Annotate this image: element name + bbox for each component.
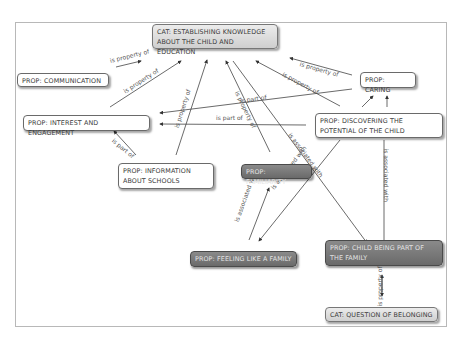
node-cat-establishing-knowledge[interactable]: CAT: ESTABLISHING KNOWLEDGE ABOUT THE CH… <box>152 24 278 49</box>
edges-layer <box>0 0 464 343</box>
node-prop-discovering-potential[interactable]: PROP: DISCOVERING THE POTENTIAL OF THE C… <box>315 113 443 138</box>
node-prop-communication[interactable]: PROP: COMMUNICATION <box>17 73 109 87</box>
edge-discovering-caring <box>362 96 373 107</box>
node-cat-question-belonging[interactable]: CAT: QUESTION OF BELONGING <box>325 307 438 322</box>
node-prop-child-part-of-family[interactable]: PROP: CHILD BEING PART OF THE FAMILY <box>325 240 443 266</box>
edge-interest-cat <box>110 61 181 107</box>
node-prop-interest-engagement[interactable]: PROP: INTEREST AND ENGAGEMENT <box>23 115 150 131</box>
edge-label: is property of <box>376 266 383 306</box>
node-prop-information-schools[interactable]: PROP: INFORMATION ABOUT SCHOOLS <box>118 163 214 189</box>
node-prop-familiarity[interactable]: PROP: FAMILIARITY <box>241 164 312 179</box>
edge-discovering-interest <box>160 124 306 125</box>
node-prop-caring[interactable]: PROP: CARING <box>360 72 416 88</box>
edge-label: is associated with <box>383 149 390 202</box>
node-prop-feeling-like-family[interactable]: PROP: FEELING LIKE A FAMILY <box>190 251 297 267</box>
edge-label: is part of <box>216 114 243 121</box>
edge-communication-cat <box>116 61 141 67</box>
